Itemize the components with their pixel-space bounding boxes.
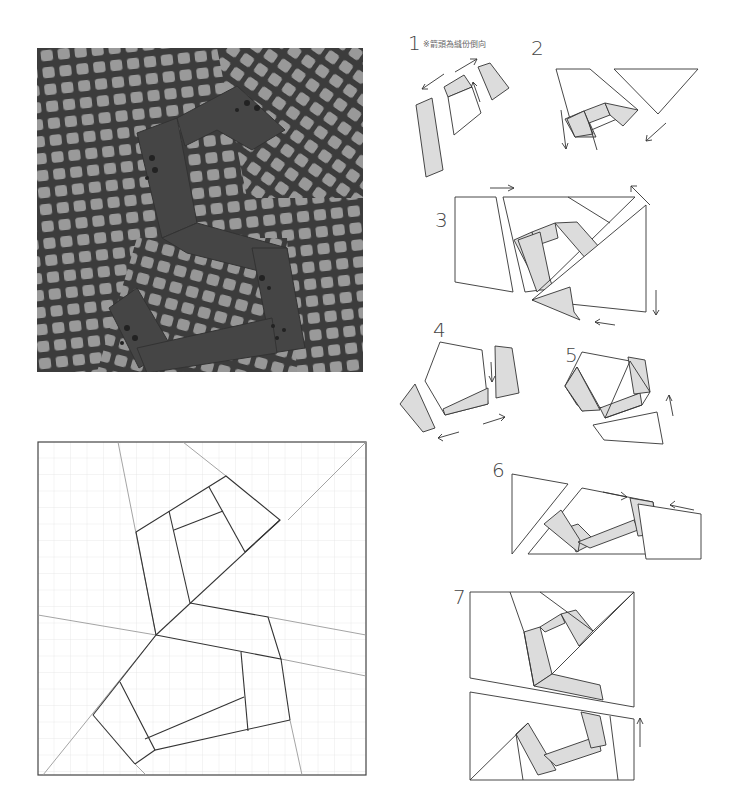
step-4-diagram: [395, 340, 535, 450]
step-6-diagram: [508, 470, 703, 565]
quilt-photo-illustration: [37, 48, 363, 372]
quilt-photo: [37, 48, 363, 372]
step-6-number: 6: [492, 460, 505, 480]
step-1-note: ※箭頭為縫份倒向: [423, 38, 486, 49]
step-1-number: 1: [408, 33, 421, 53]
step-7-number: 7: [453, 587, 466, 607]
pattern-template: [38, 442, 368, 776]
step-3-diagram: [450, 180, 680, 330]
step-1-diagram: [400, 55, 520, 175]
step-2-number: 2: [531, 38, 544, 58]
step-3-number: 3: [435, 210, 448, 230]
step-7-diagram: [468, 590, 668, 790]
step-5-diagram: [560, 350, 690, 450]
step-2-diagram: [550, 65, 710, 175]
step-4-number: 4: [433, 320, 446, 340]
